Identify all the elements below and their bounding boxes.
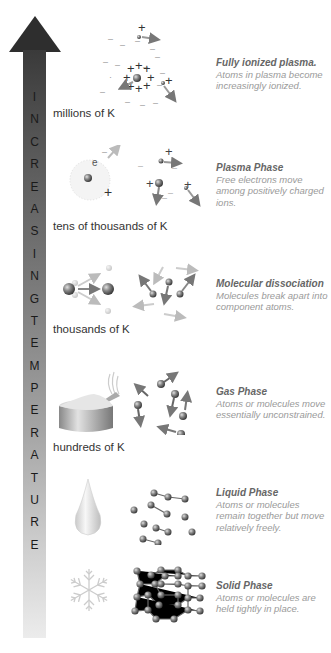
phase-description-block: Gas Phase Atoms or molecules move essent… <box>216 386 328 421</box>
svg-text:+: + <box>146 176 154 191</box>
svg-text:–: – <box>162 193 167 203</box>
arrow-letter: R <box>23 511 46 533</box>
arrow-letter: S <box>23 220 46 242</box>
arrow-letter: N <box>23 265 46 287</box>
svg-text:–: – <box>155 52 160 62</box>
phase-title: Gas Phase <box>216 386 328 398</box>
arrow-letter: E <box>23 332 46 354</box>
phase-description-block: Molecular dissociation Molecules break a… <box>216 278 328 313</box>
svg-text:–: – <box>125 97 130 107</box>
arrow-letter: I <box>23 243 46 265</box>
svg-text:–: – <box>140 100 145 110</box>
svg-text:+: + <box>104 184 112 200</box>
arrow-letter: R <box>23 422 46 444</box>
svg-text:+: + <box>138 20 146 35</box>
svg-text:–: – <box>115 60 120 70</box>
phase-title: Liquid Phase <box>216 487 328 499</box>
arrow-letter: P <box>23 377 46 399</box>
phase-description-block: Fully ionized plasma. Atoms in plasma be… <box>216 57 328 92</box>
arrow-letter: T <box>23 467 46 489</box>
svg-text:–: – <box>108 34 113 44</box>
svg-text:–: – <box>103 57 108 67</box>
svg-text:·: · <box>109 72 112 82</box>
arrow-letter: A <box>23 444 46 466</box>
temperature-label: tens of thousands of K <box>53 220 167 232</box>
phase-title: Molecular dissociation <box>216 278 328 290</box>
svg-text:–: – <box>100 87 105 97</box>
temperature-label: millions of K <box>53 107 115 119</box>
molecular-dissociation-illustration <box>58 262 208 322</box>
phase-description: Atoms in plasma become increasingly ioni… <box>216 69 323 92</box>
phase-description: Molecules break apart into component ato… <box>216 290 327 313</box>
arrow-letter: E <box>23 176 46 198</box>
arrow-letter: N <box>23 108 46 130</box>
svg-text:+: + <box>135 58 143 73</box>
phase-title: Plasma Phase <box>216 162 328 174</box>
temperature-label: hundreds of K <box>53 441 125 453</box>
phase-title: Fully ionized plasma. <box>216 57 328 69</box>
svg-text:–: – <box>172 163 177 173</box>
phase-description-block: Solid Phase Atoms or molecules are held … <box>216 580 328 615</box>
temperature-label: thousands of K <box>53 323 130 335</box>
arrow-letter: M <box>23 355 46 377</box>
snowflake-icon <box>66 565 112 615</box>
svg-text:+: + <box>127 79 135 94</box>
phase-description-block: Plasma Phase Free electrons move among p… <box>216 162 328 208</box>
arrow-letter: A <box>23 198 46 220</box>
fully-ionized-plasma-illustration: ––– ––– ––– ––– –·– + +++ ++ +++ + <box>95 20 185 115</box>
arrow-letter: U <box>23 489 46 511</box>
phase-description: Atoms or molecules are held tightly in p… <box>216 592 316 615</box>
arrow-letter: R <box>23 153 46 175</box>
phase-description: Atoms or molecules move essentially unco… <box>216 398 325 421</box>
arrow-letter: E <box>23 534 46 556</box>
arrow-label: I N C R E A S I N G T E M P E R A T U R … <box>23 86 46 556</box>
svg-text:–: – <box>153 98 158 108</box>
phase-description: Atoms or molecules remain together but m… <box>216 499 324 533</box>
svg-text:+: + <box>143 78 151 93</box>
svg-text:–: – <box>138 161 143 171</box>
gas-phase-illustration <box>58 370 208 435</box>
phase-description: Free electrons move among positively cha… <box>216 174 324 208</box>
plasma-phase-illustration: e – + +++ –––– <box>62 145 212 215</box>
arrow-head <box>9 16 61 52</box>
liquid-phase-illustration <box>70 475 210 545</box>
arrow-letter: T <box>23 310 46 332</box>
arrow-letter: E <box>23 399 46 421</box>
svg-text:–: – <box>102 147 107 157</box>
svg-text:+: + <box>165 145 173 159</box>
svg-text:–: – <box>120 40 125 50</box>
solid-phase-illustration <box>130 562 220 624</box>
phase-title: Solid Phase <box>216 580 328 592</box>
arrow-letter: G <box>23 288 46 310</box>
arrow-letter: C <box>23 131 46 153</box>
svg-text:e: e <box>92 157 98 168</box>
svg-text:–: – <box>168 188 173 198</box>
svg-text:–: – <box>157 80 162 90</box>
phase-description-block: Liquid Phase Atoms or molecules remain t… <box>216 487 328 533</box>
arrow-letter: I <box>23 86 46 108</box>
svg-text:+: + <box>165 73 173 88</box>
svg-text:+: + <box>135 81 143 96</box>
